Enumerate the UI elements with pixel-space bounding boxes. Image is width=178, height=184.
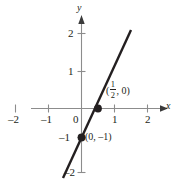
y-tick-label--1: –1 (59, 132, 70, 143)
y-tick-label-2: 2 (68, 28, 74, 39)
x-axis-label: x (166, 101, 170, 111)
coordinate-plane (0, 0, 178, 184)
x-tick-label--2: –2 (8, 114, 19, 125)
fraction-denominator: 2 (110, 91, 116, 100)
plotted-line (63, 30, 131, 178)
x-intercept-rest: , 0) (117, 85, 130, 96)
y-axis-arrow (78, 15, 84, 24)
x-tick-label-0: 0 (73, 114, 79, 125)
one-half-fraction: 12 (110, 80, 116, 99)
graph-figure: x y –2 –1 0 1 2 2 1 –1 –2 (12, 0) (0, –1… (0, 0, 178, 184)
y-tick-label-1: 1 (68, 66, 74, 77)
point-x-intercept (94, 105, 102, 113)
y-tick-label--2: –2 (64, 167, 75, 178)
x-tick-label-2: 2 (145, 114, 151, 125)
fraction-numerator: 1 (110, 80, 116, 89)
y-intercept-annotation: (0, –1) (85, 132, 112, 142)
x-intercept-open-paren: ( (106, 85, 109, 96)
x-tick-label--1: –1 (41, 114, 52, 125)
x-intercept-annotation: (12, 0) (106, 80, 130, 99)
x-tick-label-1: 1 (112, 114, 118, 125)
y-axis-label: y (77, 3, 81, 13)
